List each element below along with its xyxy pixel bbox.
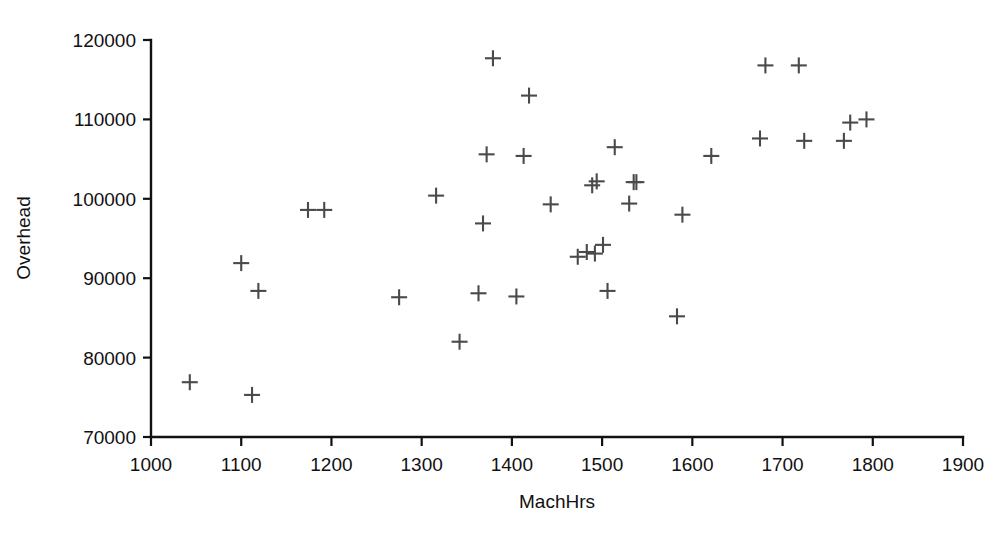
data-point [233,255,249,271]
data-point [244,387,260,403]
x-tick-labels: 1000110012001300140015001600170018001900 [130,454,984,475]
y-tick-label: 100000 [73,189,136,210]
data-point [796,133,812,149]
axis-ticks [143,40,963,446]
data-point [703,148,719,164]
x-tick-label: 1700 [761,454,803,475]
data-point [589,173,605,189]
data-point [858,111,874,127]
plot-canvas: 700008000090000100000110000120000 100011… [0,0,1001,538]
data-markers [182,50,875,403]
x-tick-label: 1200 [310,454,352,475]
data-point [300,202,316,218]
x-tick-label: 1400 [491,454,533,475]
y-tick-label: 110000 [74,109,136,130]
axes [151,40,963,437]
x-tick-label: 1500 [581,454,623,475]
y-tick-label: 90000 [83,268,136,289]
x-tick-label: 1900 [942,454,984,475]
y-tick-labels: 700008000090000100000110000120000 [73,30,136,448]
data-point [752,130,768,146]
data-point [516,148,532,164]
scatter-plot-figure: 700008000090000100000110000120000 100011… [0,0,1001,538]
x-tick-label: 1100 [221,454,262,475]
data-point [521,88,537,104]
x-tick-label: 1600 [671,454,713,475]
data-point [471,285,487,301]
y-tick-label: 120000 [73,30,136,51]
data-point [316,202,332,218]
data-point [669,308,685,324]
data-point [621,196,637,212]
y-tick-label: 70000 [83,427,136,448]
data-point [600,283,616,299]
data-point [757,57,773,73]
x-tick-label: 1300 [401,454,443,475]
data-point [508,288,524,304]
data-point [475,215,491,231]
data-point [250,283,266,299]
data-point [479,146,495,162]
data-point [674,207,690,223]
y-axis-title: Overhead [13,196,34,279]
x-tick-label: 1000 [130,454,172,475]
x-tick-label: 1800 [852,454,894,475]
data-point [587,246,603,262]
data-point [584,177,600,193]
data-point [595,237,611,253]
x-axis-title: MachHrs [519,491,595,512]
data-point [391,289,407,305]
data-point [842,115,858,131]
data-point [836,133,852,149]
data-point [428,188,444,204]
data-point [182,374,198,390]
y-tick-label: 80000 [83,348,136,369]
data-point [628,174,644,190]
data-point [485,50,501,66]
data-point [452,334,468,350]
data-point [543,196,559,212]
data-point [791,57,807,73]
data-point [607,139,623,155]
